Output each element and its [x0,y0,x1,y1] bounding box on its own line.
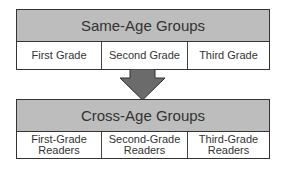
same-age-groups-title: Same-Age Groups [17,10,269,42]
cross-age-groups-title: Cross-Age Groups [17,100,269,132]
cross-age-groups-box: Cross-Age Groups First-GradeReaders Seco… [16,99,270,159]
third-grade-readers-cell: Third-GradeReaders [188,132,269,158]
first-grade-cell: First Grade [17,42,102,69]
cell-line-2: Readers [38,144,80,156]
cell-line-2: Readers [124,144,166,156]
second-grade-cell: Second Grade [102,42,188,69]
first-grade-readers-cell: First-GradeReaders [17,132,102,158]
down-arrow-icon [118,69,168,101]
second-grade-readers-cell: Second-GradeReaders [102,132,188,158]
same-age-groups-row: First Grade Second Grade Third Grade [17,42,269,69]
cell-line-2: Readers [208,144,250,156]
cross-age-groups-row: First-GradeReaders Second-GradeReaders T… [17,132,269,158]
third-grade-cell: Third Grade [188,42,269,69]
same-age-groups-box: Same-Age Groups First Grade Second Grade… [16,9,270,70]
